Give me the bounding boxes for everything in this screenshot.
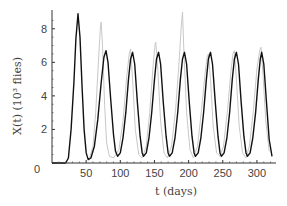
chart: 50100150200250300 02468 t (days) X(t) (1… [0,0,287,206]
y-tick-label: 8 [41,23,47,35]
x-tick-label: 150 [145,167,163,179]
y-tick-label: 4 [41,90,47,102]
series-line-model [52,14,272,163]
x-tick-label: 250 [214,167,232,179]
x-tick-label: 200 [179,167,197,179]
y-tick-label: 0 [34,163,40,175]
plot-lines [52,12,272,163]
axes: 50100150200250300 02468 [34,10,276,179]
x-tick-label: 50 [80,167,92,179]
y-axis-title: X(t) (10³ flies) [11,57,24,135]
y-tick-label: 6 [41,56,47,68]
x-tick-label: 100 [111,167,129,179]
x-axis-title: t (days) [155,185,197,198]
y-tick-label: 2 [41,123,47,135]
x-tick-label: 300 [248,167,266,179]
